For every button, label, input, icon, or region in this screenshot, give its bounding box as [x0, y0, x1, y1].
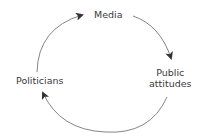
arrow-politicians-to-media	[37, 15, 82, 72]
node-public-label-line1: Public	[149, 67, 191, 78]
cycle-diagram: Media Public attitudes Politicians	[0, 0, 204, 140]
node-public-label-line2: attitudes	[149, 78, 191, 89]
node-politicians: Politicians	[16, 75, 64, 86]
node-public-attitudes: Public attitudes	[149, 67, 191, 89]
arrow-public-to-politicians	[43, 93, 167, 132]
arrow-media-to-public	[133, 16, 171, 58]
node-media: Media	[94, 9, 123, 20]
